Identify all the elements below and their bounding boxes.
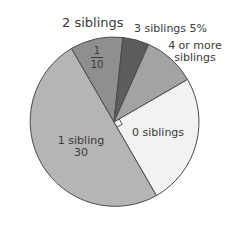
label-1-sibling: 1 sibling 30 <box>54 135 108 159</box>
label-0-siblings: 0 siblings <box>132 127 184 139</box>
label-4-line2: siblings <box>167 52 223 64</box>
label-2-siblings: 2 siblings <box>62 16 124 30</box>
fraction-one-tenth: 1 10 <box>89 45 105 70</box>
fraction-bar <box>91 57 103 58</box>
fraction-denominator: 10 <box>91 59 104 70</box>
fraction-numerator: 1 <box>94 45 100 56</box>
label-1-line2: 30 <box>54 147 108 159</box>
label-4-or-more-siblings: 4 or more siblings <box>167 40 223 64</box>
label-3-siblings: 3 siblings 5% <box>134 23 207 35</box>
